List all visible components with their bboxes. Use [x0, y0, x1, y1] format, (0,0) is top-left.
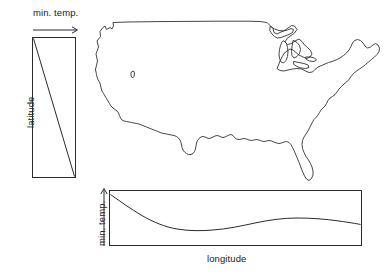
- arrow-right-icon: [33, 25, 79, 35]
- longitude-temp-panel: [109, 190, 362, 246]
- arrow-up-icon: [99, 187, 109, 247]
- usa-outline-icon: [88, 14, 385, 186]
- latitude-temp-panel: [32, 37, 76, 178]
- longitude-temp-frame: [109, 190, 362, 246]
- left-panel-top-label: min. temp.: [33, 7, 78, 18]
- figure-canvas: min. temp. latitude min. te: [0, 0, 389, 278]
- latitude-temp-frame: [32, 37, 76, 178]
- usa-map: [88, 14, 385, 186]
- bottom-panel-x-axis-label: longitude: [207, 253, 246, 264]
